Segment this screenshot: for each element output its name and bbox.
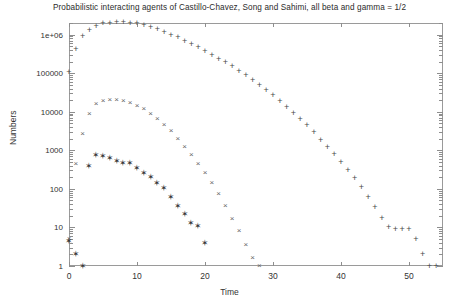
chart-title: Probabilistic interacting agents of Cast… — [0, 3, 459, 12]
data-point-plus-series: + — [100, 19, 105, 27]
y-tick-minor — [439, 127, 443, 128]
data-point-plus-series: + — [66, 68, 71, 76]
data-point-plus-series: + — [318, 136, 323, 144]
data-point-plus-series: + — [304, 121, 309, 129]
y-tick-minor — [69, 41, 73, 42]
y-tick-minor — [439, 50, 443, 51]
y-tick-minor — [69, 115, 73, 116]
x-tick — [205, 23, 206, 27]
x-tick — [409, 262, 410, 266]
y-tick-minor — [439, 115, 443, 116]
data-point-plus-series: + — [87, 26, 92, 34]
y-tick-minor — [439, 154, 443, 155]
y-tick-label: 100 — [50, 184, 63, 193]
data-point-star-series: ✶ — [79, 262, 87, 270]
y-tick-minor — [439, 229, 443, 230]
data-point-cross-series: × — [135, 102, 140, 110]
x-tick — [69, 262, 70, 266]
y-tick-label: 1000 — [45, 146, 63, 155]
y-tick-minor — [439, 89, 443, 90]
y-tick-minor — [69, 100, 73, 101]
x-tick-label: 50 — [404, 271, 413, 281]
y-tick-label: 10 — [54, 223, 63, 232]
y-tick-minor — [439, 132, 443, 133]
data-point-plus-series: + — [386, 223, 391, 231]
data-point-plus-series: + — [216, 55, 221, 63]
y-tick-minor — [439, 77, 443, 78]
data-point-plus-series: + — [243, 71, 248, 79]
data-point-plus-series: + — [406, 225, 411, 233]
data-point-cross-series: × — [203, 169, 208, 177]
y-tick-minor — [439, 152, 443, 153]
y-tick-minor — [439, 41, 443, 42]
y-tick-minor — [439, 118, 443, 119]
data-point-plus-series: + — [325, 143, 330, 151]
data-point-plus-series: + — [413, 235, 418, 243]
y-tick-minor — [439, 79, 443, 80]
y-tick-minor — [439, 62, 443, 63]
y-tick-minor — [439, 120, 443, 121]
y-tick-minor — [69, 159, 73, 160]
data-point-plus-series: + — [420, 250, 425, 258]
y-tick-minor — [439, 43, 443, 44]
y-tick-minor — [439, 231, 443, 232]
y-tick-minor — [69, 93, 73, 94]
data-point-star-series: ✶ — [72, 250, 80, 258]
y-tick-label: 1 — [59, 262, 63, 271]
data-point-star-series: ✶ — [201, 239, 209, 247]
y-tick-minor — [439, 248, 443, 249]
x-tick — [409, 23, 410, 27]
data-point-plus-series: + — [270, 91, 275, 99]
data-point-plus-series: + — [175, 33, 180, 41]
y-tick-minor — [439, 254, 443, 255]
data-point-plus-series: + — [379, 214, 384, 222]
x-tick-label: 10 — [132, 271, 141, 281]
y-tick-minor — [69, 209, 73, 210]
data-point-plus-series: + — [134, 19, 139, 27]
data-point-plus-series: + — [168, 31, 173, 39]
data-point-plus-series: + — [277, 97, 282, 105]
x-tick — [341, 262, 342, 266]
data-point-cross-series: × — [243, 241, 248, 249]
data-point-plus-series: + — [94, 22, 99, 30]
y-tick-label: 100000 — [36, 69, 63, 78]
y-tick-minor — [69, 162, 73, 163]
y-tick-label: 1e+06 — [41, 30, 63, 39]
y-tick-minor — [69, 38, 73, 39]
data-point-cross-series: × — [114, 96, 119, 104]
data-point-star-series: ✶ — [160, 184, 168, 192]
data-point-plus-series: + — [114, 18, 119, 26]
data-point-plus-series: + — [155, 25, 160, 33]
data-point-cross-series: × — [257, 262, 262, 270]
data-point-plus-series: + — [352, 174, 357, 182]
x-tick-label: 20 — [200, 271, 209, 281]
y-tick-minor — [439, 195, 443, 196]
data-point-plus-series: + — [121, 18, 126, 26]
y-tick-minor — [69, 123, 73, 124]
data-point-cross-series: × — [216, 190, 221, 198]
data-point-plus-series: + — [284, 103, 289, 111]
data-point-cross-series: × — [223, 202, 228, 210]
y-tick-minor — [439, 209, 443, 210]
x-tick-label: 40 — [336, 271, 345, 281]
data-point-plus-series: + — [359, 183, 364, 191]
x-axis-title: Time — [0, 287, 459, 297]
y-axis-title: Numbers — [8, 111, 18, 145]
plot-area: 1101001000100001000001e+06 01020304050 +… — [69, 23, 443, 266]
data-point-cross-series: × — [196, 160, 201, 168]
y-tick-minor — [69, 154, 73, 155]
y-tick-minor — [69, 139, 73, 140]
data-point-star-series: ✶ — [181, 210, 189, 218]
y-tick-minor — [439, 197, 443, 198]
y-tick-minor — [439, 162, 443, 163]
y-tick-minor — [439, 243, 443, 244]
data-point-plus-series: + — [182, 37, 187, 45]
y-tick-minor — [439, 204, 443, 205]
y-tick-minor — [439, 156, 443, 157]
x-tick — [273, 262, 274, 266]
x-tick — [137, 262, 138, 266]
y-tick-minor — [439, 193, 443, 194]
data-point-cross-series: × — [162, 121, 167, 129]
data-point-plus-series: + — [427, 262, 432, 270]
data-point-plus-series: + — [202, 47, 207, 55]
